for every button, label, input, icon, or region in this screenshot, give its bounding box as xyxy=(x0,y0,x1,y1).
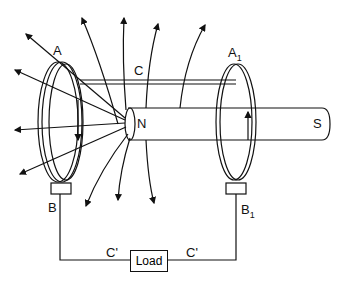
label-n: N xyxy=(137,117,146,130)
label-b1-sub: 1 xyxy=(250,210,255,220)
label-b1-text: B xyxy=(241,202,250,217)
diagram-canvas: A A1 C N S B B1 C' C' Load xyxy=(0,0,342,281)
magnet-bar xyxy=(128,108,330,140)
brush-b1 xyxy=(226,183,246,194)
label-a: A xyxy=(53,44,62,57)
label-a1-sub: 1 xyxy=(237,53,242,63)
label-c-prime-left: C' xyxy=(106,246,118,259)
label-c-prime-right: C' xyxy=(186,246,198,259)
load-box: Load xyxy=(130,250,168,272)
label-b1: B1 xyxy=(241,203,255,220)
label-a1-text: A xyxy=(228,45,237,60)
disc-a1 xyxy=(216,64,252,180)
label-b: B xyxy=(48,201,57,214)
brush-b xyxy=(51,183,71,194)
label-s: S xyxy=(313,117,322,130)
diagram-drawing xyxy=(0,0,342,281)
label-c: C xyxy=(134,64,143,77)
label-a1: A1 xyxy=(228,46,242,63)
